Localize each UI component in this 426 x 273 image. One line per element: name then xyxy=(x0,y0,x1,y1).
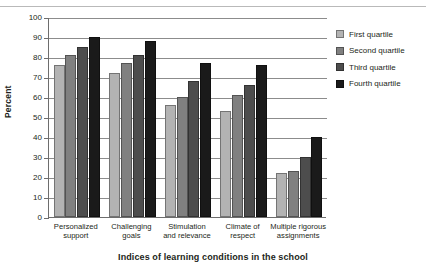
legend-swatch-icon xyxy=(336,80,344,88)
bar[interactable] xyxy=(232,95,243,217)
bar-group xyxy=(109,18,155,217)
y-axis-tick xyxy=(44,218,49,219)
y-axis-tick-label: 60 xyxy=(33,94,42,102)
legend-label: First quartile xyxy=(349,30,393,39)
bar-group xyxy=(165,18,211,217)
legend-item[interactable]: Fourth quartile xyxy=(336,77,405,91)
bar[interactable] xyxy=(65,55,76,217)
bar[interactable] xyxy=(276,173,287,217)
y-axis-tick xyxy=(44,158,49,159)
y-axis-tick xyxy=(44,98,49,99)
legend-swatch-icon xyxy=(336,47,344,55)
y-axis-tick xyxy=(44,178,49,179)
bar-group xyxy=(54,18,100,217)
legend-label: Third quartile xyxy=(349,63,396,72)
y-axis-tick xyxy=(44,18,49,19)
y-axis-tick-label: 90 xyxy=(33,34,42,42)
y-axis-tick-label: 100 xyxy=(29,14,42,22)
x-axis-category-label: Multiple rigorousassignments xyxy=(264,222,332,241)
bar[interactable] xyxy=(200,63,211,217)
bar-group xyxy=(276,18,322,217)
y-axis-tick xyxy=(44,198,49,199)
y-axis-tick-label: 40 xyxy=(33,134,42,142)
legend-label: Fourth quartile xyxy=(349,79,401,88)
bar[interactable] xyxy=(145,41,156,217)
y-axis-tick xyxy=(44,118,49,119)
bar[interactable] xyxy=(244,85,255,217)
bar[interactable] xyxy=(256,65,267,217)
bar-chart: Percent 1009080706050403020100 Personali… xyxy=(0,0,426,273)
bar[interactable] xyxy=(288,171,299,217)
bar[interactable] xyxy=(89,37,100,217)
legend-item[interactable]: Third quartile xyxy=(336,60,405,74)
legend-label: Second quartile xyxy=(349,46,405,55)
chart-legend: First quartileSecond quartileThird quart… xyxy=(336,27,405,93)
bar[interactable] xyxy=(77,47,88,217)
y-axis-tick-label: 0 xyxy=(38,214,42,222)
bar[interactable] xyxy=(109,73,120,217)
bar[interactable] xyxy=(311,137,322,217)
x-axis-title: Indices of learning conditions in the sc… xyxy=(0,252,426,262)
y-axis-tick-label: 50 xyxy=(33,114,42,122)
y-axis-tick-label: 20 xyxy=(33,174,42,182)
bar-group xyxy=(220,18,266,217)
bar[interactable] xyxy=(188,81,199,217)
plot-area: 1009080706050403020100 xyxy=(48,18,326,218)
y-axis-tick-label: 10 xyxy=(33,194,42,202)
y-axis-tick-label: 70 xyxy=(33,74,42,82)
x-axis-category-label-line: Multiple rigorous xyxy=(264,222,332,231)
bar[interactable] xyxy=(220,111,231,217)
y-axis-tick xyxy=(44,78,49,79)
bar[interactable] xyxy=(300,157,311,217)
bar[interactable] xyxy=(133,55,144,217)
y-axis-tick-label: 30 xyxy=(33,154,42,162)
y-axis-tick xyxy=(44,38,49,39)
y-axis-tick xyxy=(44,138,49,139)
y-axis-tick xyxy=(44,58,49,59)
x-axis-category-label-line: assignments xyxy=(264,231,332,240)
bar[interactable] xyxy=(121,63,132,217)
y-axis-tick-label: 80 xyxy=(33,54,42,62)
legend-swatch-icon xyxy=(336,30,344,38)
legend-item[interactable]: First quartile xyxy=(336,27,405,41)
legend-swatch-icon xyxy=(336,63,344,71)
legend-item[interactable]: Second quartile xyxy=(336,44,405,58)
y-axis-title: Percent xyxy=(3,85,13,118)
bar[interactable] xyxy=(54,65,65,217)
bar[interactable] xyxy=(177,97,188,217)
bar[interactable] xyxy=(165,105,176,217)
